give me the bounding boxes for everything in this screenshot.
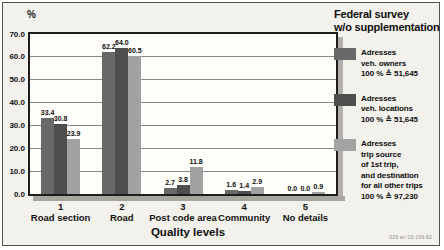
plot-area: 33.430.823.962.264.060.52.73.811.81.61.4…: [28, 32, 338, 196]
y-axis-tick-label: 10.0: [3, 167, 25, 176]
category-number: 4: [209, 201, 279, 212]
legend-entry-line: Adresses: [361, 139, 423, 150]
legend-title-line-2: w/o supplementation: [334, 21, 441, 34]
legend-entry-line: for all other trips: [361, 181, 423, 192]
bar-value-label: 2.9: [242, 178, 272, 185]
legend-entry-line: veh. locations: [361, 104, 418, 115]
bar-value-label: 23.9: [59, 130, 89, 137]
category-number: 5: [270, 201, 340, 212]
gridline: [30, 79, 336, 80]
gridline: [30, 125, 336, 126]
bar: [115, 48, 128, 194]
category-number: 1: [26, 201, 96, 212]
legend-entry-line: 100 % ≙ 51,645: [361, 115, 418, 126]
category-label: No details: [260, 212, 350, 223]
x-axis-title: Quality levels: [118, 226, 258, 238]
y-axis-tick-label: 50.0: [3, 75, 25, 84]
bar: [312, 192, 325, 194]
legend-entry-line: 100 % ≙ 97,230: [361, 192, 423, 203]
bar: [251, 187, 264, 194]
legend-entry-text: Adressestrip sourceof 1st trip,and desti…: [361, 139, 423, 202]
bar: [238, 191, 251, 194]
y-axis-tick-label: 60.0: [3, 52, 25, 61]
category-number: 2: [87, 201, 157, 212]
bar: [190, 167, 203, 194]
legend-entry-line: Adresses: [361, 94, 418, 105]
legend-entries: Adressesveh. owners100 % ≙ 51,645Adresse…: [334, 48, 441, 202]
bar: [177, 185, 190, 194]
bar-value-label: 0.9: [303, 183, 333, 190]
gridline: [30, 56, 336, 57]
legend-entry-line: 100 % ≙ 51,645: [361, 69, 418, 80]
legend-title: Federal survey w/o supplementation: [334, 8, 441, 34]
legend-entry-line: veh. owners: [361, 59, 418, 70]
legend-entry: Adressesveh. owners100 % ≙ 51,645: [334, 48, 441, 80]
legend-entry: Adressesveh. locations100 % ≙ 51,645: [334, 94, 441, 126]
gridline: [30, 102, 336, 103]
y-axis-tick-label: 40.0: [3, 98, 25, 107]
legend-entry-text: Adressesveh. owners100 % ≙ 51,645: [361, 48, 418, 80]
bar-value-label: 64.0: [107, 39, 137, 46]
legend-title-line-1: Federal survey: [334, 8, 441, 21]
bar-value-label: 11.8: [181, 158, 211, 165]
legend-swatch: [334, 48, 356, 60]
y-axis-unit-label: %: [27, 9, 36, 20]
y-axis-tick-label: 30.0: [3, 121, 25, 130]
bar: [128, 56, 141, 194]
legend-entry-line: and destination: [361, 171, 423, 182]
legend-entry-line: of 1st trip,: [361, 160, 423, 171]
figure-frame: % 33.430.823.962.264.060.52.73.811.81.61…: [2, 2, 440, 246]
legend-swatch: [334, 94, 356, 106]
category-number: 3: [148, 201, 218, 212]
y-axis-tick-label: 70.0: [3, 30, 25, 39]
bar: [41, 118, 54, 194]
legend-entry: Adressestrip sourceof 1st trip,and desti…: [334, 139, 441, 202]
y-axis-tick-label: 20.0: [3, 144, 25, 153]
bar-value-label: 30.8: [46, 115, 76, 122]
legend-entry-line: trip source: [361, 150, 423, 161]
bar: [164, 188, 177, 194]
bar-value-label: 60.5: [120, 47, 150, 54]
legend-swatch: [334, 139, 356, 151]
legend-entry-text: Adressesveh. locations100 % ≙ 51,645: [361, 94, 418, 126]
y-axis-tick-label: 0.0: [3, 190, 25, 199]
legend-entry-line: Adresses: [361, 48, 418, 59]
bar: [67, 139, 80, 194]
bar: [102, 52, 115, 194]
bar: [225, 190, 238, 194]
legend: Federal survey w/o supplementation Adres…: [334, 8, 441, 202]
figure-id-note: 029 an 03-159-92: [389, 234, 432, 240]
